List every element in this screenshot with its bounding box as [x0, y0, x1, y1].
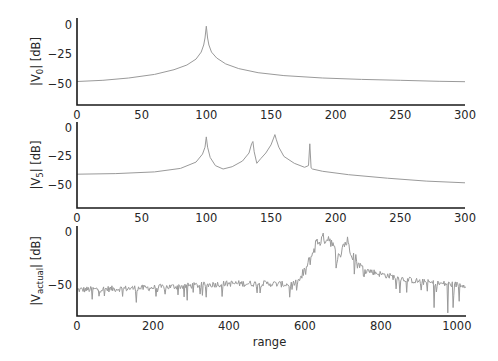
- panel-v5: 0501001502002503000−25−50|V5| [dB]: [29, 121, 476, 225]
- x-tick-label: 600: [294, 319, 316, 333]
- x-tick-label: 100: [195, 211, 217, 225]
- panel-vactual: 020040060080010000−50|Vactual| [dB]range: [29, 225, 472, 349]
- y-tick-label: −50: [48, 178, 72, 192]
- y-tick-label: 0: [65, 121, 72, 135]
- x-tick-label: 300: [454, 108, 476, 122]
- y-tick-label: 0: [65, 18, 72, 32]
- x-tick-label: 200: [142, 319, 164, 333]
- x-tick-label: 0: [73, 319, 80, 333]
- y-axis-label: |V5| [dB]: [29, 141, 45, 190]
- figure: 0501001502002503000−25−50|V0| [dB] 05010…: [0, 0, 498, 361]
- y-tick-label: −25: [48, 149, 72, 163]
- series-line-v5: [77, 135, 465, 183]
- x-tick-label: 400: [218, 319, 240, 333]
- y-axis-label: |V0| [dB]: [29, 37, 45, 86]
- x-tick-label: 50: [134, 211, 149, 225]
- x-tick-label: 50: [134, 108, 149, 122]
- x-tick-label: 0: [73, 108, 80, 122]
- x-tick-label: 150: [260, 108, 282, 122]
- x-tick-label: 0: [73, 211, 80, 225]
- axis-spine: [77, 18, 465, 105]
- y-tick-label: −50: [48, 77, 72, 91]
- series-line-v0: [77, 26, 465, 81]
- axis-spine: [77, 226, 466, 316]
- y-tick-label: 0: [65, 225, 72, 239]
- panel-v0: 0501001502002503000−25−50|V0| [dB]: [29, 18, 476, 122]
- axis-spine: [77, 122, 465, 208]
- x-axis-label: range: [253, 335, 286, 349]
- x-tick-label: 250: [389, 108, 411, 122]
- x-tick-label: 100: [195, 108, 217, 122]
- x-tick-label: 1000: [442, 319, 471, 333]
- x-tick-label: 200: [325, 211, 347, 225]
- y-tick-label: −25: [48, 47, 72, 61]
- x-tick-label: 250: [389, 211, 411, 225]
- y-axis-label: |Vactual| [dB]: [29, 236, 45, 306]
- y-tick-label: −50: [48, 278, 72, 292]
- x-tick-label: 800: [370, 319, 392, 333]
- x-tick-label: 200: [325, 108, 347, 122]
- x-tick-label: 150: [260, 211, 282, 225]
- x-tick-label: 300: [454, 211, 476, 225]
- series-line-vactual: [77, 233, 466, 313]
